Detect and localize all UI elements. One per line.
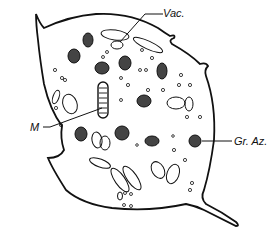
label-azurophil-granule: Gr. Az. [234, 136, 267, 147]
leader-lines [43, 14, 232, 141]
label-mitochondrion: M [30, 122, 39, 133]
mitochondrion [98, 82, 108, 118]
cell-diagram [0, 0, 277, 242]
label-vacuole: Vac. [163, 8, 185, 19]
cell-membrane [36, 14, 238, 226]
